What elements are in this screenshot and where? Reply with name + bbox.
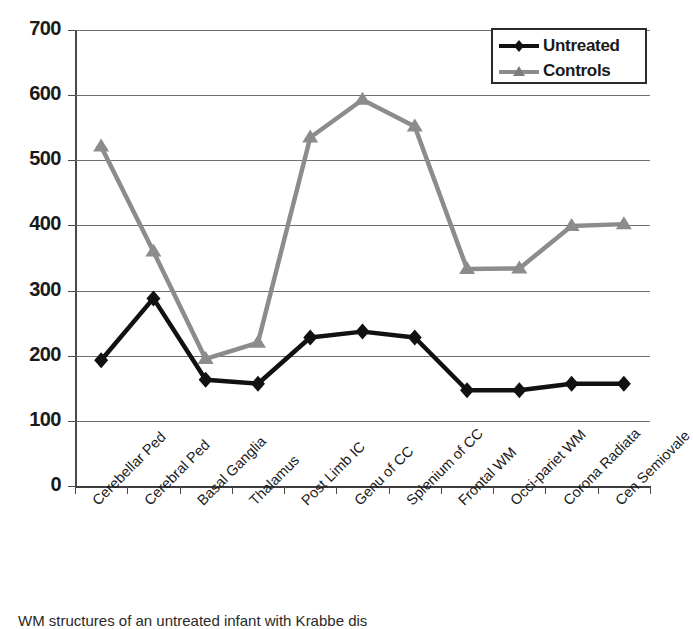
legend-label-controls: Controls bbox=[543, 62, 610, 80]
x-axis-tick bbox=[232, 487, 233, 494]
series-line-untreated bbox=[101, 298, 624, 390]
data-point-marker bbox=[565, 376, 579, 392]
data-point-marker bbox=[617, 376, 631, 392]
x-axis-tick bbox=[598, 487, 599, 494]
y-axis-tick-label: 400 bbox=[0, 212, 61, 235]
legend-item-controls: Controls bbox=[498, 58, 640, 83]
x-axis-tick bbox=[493, 487, 494, 494]
figure-caption: WM structures of an untreated infant wit… bbox=[18, 612, 658, 629]
data-point-marker bbox=[356, 324, 370, 340]
series-line-controls bbox=[101, 100, 624, 359]
y-axis-tick-label: 0 bbox=[0, 473, 61, 496]
x-axis-tick bbox=[389, 487, 390, 494]
chart-legend: Untreated Controls bbox=[491, 28, 647, 84]
data-point-marker bbox=[145, 243, 161, 256]
y-axis-tick-label: 600 bbox=[0, 82, 61, 105]
y-axis-tick-label: 100 bbox=[0, 408, 61, 431]
x-axis-tick bbox=[75, 487, 76, 494]
y-axis-tick-label: 500 bbox=[0, 147, 61, 170]
y-axis-tick-label: 300 bbox=[0, 278, 61, 301]
data-point-marker bbox=[93, 139, 109, 152]
data-point-marker bbox=[250, 335, 266, 348]
data-point-marker bbox=[512, 382, 526, 398]
x-axis-tick bbox=[336, 487, 337, 494]
y-axis-tick-label: 700 bbox=[0, 17, 61, 40]
legend-marker-triangle-icon bbox=[498, 62, 540, 80]
x-axis-tick bbox=[180, 487, 181, 494]
y-axis-tick-label: 200 bbox=[0, 343, 61, 366]
legend-label-untreated: Untreated bbox=[543, 37, 620, 55]
x-axis-tick bbox=[650, 487, 651, 494]
plot-area bbox=[75, 30, 650, 486]
x-axis-tick bbox=[441, 487, 442, 494]
legend-marker-diamond-icon bbox=[498, 37, 540, 55]
x-axis-tick bbox=[127, 487, 128, 494]
data-series-layer bbox=[75, 30, 650, 486]
x-axis-tick bbox=[284, 487, 285, 494]
x-axis-tick bbox=[545, 487, 546, 494]
legend-item-untreated: Untreated bbox=[498, 33, 640, 58]
data-point-marker bbox=[355, 92, 371, 105]
